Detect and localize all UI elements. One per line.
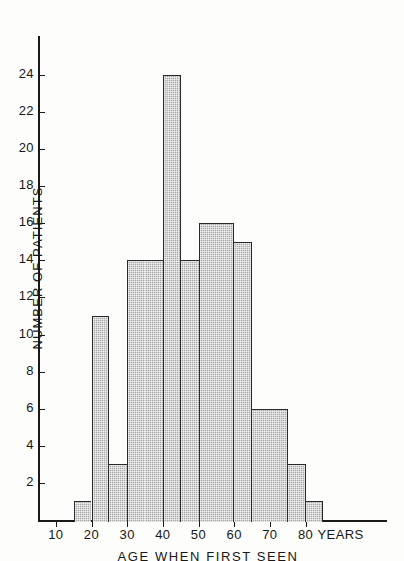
histogram-bar: [127, 260, 145, 522]
histogram-bar: [288, 464, 306, 522]
x-tick-label-10: 10: [48, 527, 63, 542]
histogram-bar: [199, 223, 217, 522]
x-axis-title: AGE WHEN FIRST SEEN: [38, 549, 378, 561]
histogram-bars: [38, 18, 388, 522]
y-tick-label-20: 20: [10, 140, 34, 155]
histogram-bar: [234, 242, 252, 522]
y-tick-label-4: 4: [10, 437, 34, 452]
x-tick-label-50: 50: [191, 527, 206, 542]
x-tick-label-60: 60: [227, 527, 242, 542]
y-tick-label-22: 22: [10, 103, 34, 118]
plot-area: 24681012141618202224 1020304050607080 NU…: [38, 18, 388, 503]
histogram-figure: 24681012141618202224 1020304050607080 NU…: [0, 0, 404, 561]
x-tick-label-40: 40: [155, 527, 170, 542]
x-tick-label-70: 70: [262, 527, 277, 542]
histogram-bar: [92, 316, 110, 522]
x-tick-label-30: 30: [120, 527, 135, 542]
histogram-bar: [270, 409, 288, 522]
histogram-bar: [306, 501, 324, 522]
x-axis-unit-label: YEARS: [318, 527, 364, 542]
y-tick-label-8: 8: [10, 363, 34, 378]
x-tick-label-20: 20: [84, 527, 99, 542]
histogram-bar: [163, 75, 181, 522]
y-tick-label-2: 2: [10, 474, 34, 489]
x-tick-label-80: 80: [298, 527, 313, 542]
y-tick-label-24: 24: [10, 66, 34, 81]
histogram-bar: [74, 501, 92, 522]
histogram-bar: [252, 409, 270, 522]
histogram-bar: [216, 223, 234, 522]
histogram-bar: [181, 260, 199, 522]
y-axis-title: NUMBER OF PATIENTS: [30, 186, 45, 349]
histogram-bar: [145, 260, 163, 522]
histogram-bar: [109, 464, 127, 522]
y-tick-label-6: 6: [10, 400, 34, 415]
